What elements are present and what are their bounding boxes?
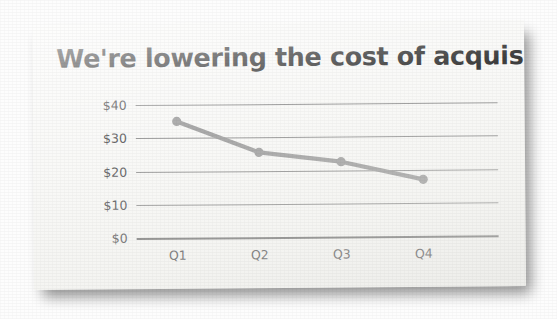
chart-plot-area: $40 $30 $20 $10 $0 Q1 Q2 Q3 Q4 <box>136 102 499 238</box>
y-tick-label-30: $30 <box>103 131 127 146</box>
data-point-q3 <box>336 157 345 166</box>
presentation-slide-card: We're lowering the cost of acquisition $… <box>32 20 526 290</box>
data-point-q2 <box>254 148 263 157</box>
cost-of-acquisition-series <box>136 102 499 238</box>
slide-title: We're lowering the cost of acquisition <box>56 40 516 74</box>
y-tick-label-10: $10 <box>103 197 127 212</box>
slide-photo-screenshot: We're lowering the cost of acquisition $… <box>0 0 557 319</box>
y-tick-label-0: $0 <box>112 231 128 246</box>
y-tick-label-20: $20 <box>103 164 127 179</box>
series-line <box>177 120 423 182</box>
line-chart: $40 $30 $20 $10 $0 Q1 Q2 Q3 Q4 <box>88 94 499 272</box>
x-tick-label-q3: Q3 <box>333 246 351 261</box>
data-point-q4 <box>419 175 428 184</box>
data-point-q1 <box>172 117 181 126</box>
x-tick-label-q4: Q4 <box>415 246 433 261</box>
series-markers <box>172 115 428 186</box>
x-tick-label-q2: Q2 <box>251 247 269 262</box>
x-tick-label-q1: Q1 <box>169 248 187 263</box>
y-tick-label-40: $40 <box>103 98 127 113</box>
